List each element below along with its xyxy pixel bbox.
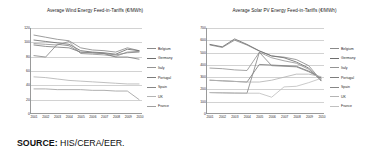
x-axis-tick-label: 2007	[281, 115, 288, 119]
legend-item-france: France	[330, 102, 378, 112]
legend-swatch-icon	[330, 87, 339, 88]
x-axis-tick-label: 2001	[206, 115, 213, 119]
legend-swatch-icon	[330, 48, 339, 49]
legend-label: Germany	[158, 56, 172, 60]
y-axis-tick-label: 100	[200, 100, 206, 104]
y-axis-tick-label: 500	[200, 51, 206, 55]
plot-area-solar: 0100200300400500600700200120022003200420…	[206, 28, 324, 114]
legend-label: Portugal	[341, 76, 354, 80]
legend-item-uk: UK	[330, 92, 378, 102]
x-axis-tick-label: 2005	[78, 115, 85, 119]
legend-swatch-icon	[147, 106, 156, 107]
legend-solar: BelgiumGermanyItalyPortugalSpainUKFrance	[330, 44, 378, 111]
y-axis-tick-label: 120	[24, 26, 30, 30]
y-axis-tick-label: 600	[200, 38, 206, 42]
legend-item-germany: Germany	[147, 54, 189, 64]
y-axis-tick-label: 400	[200, 63, 206, 67]
legend-item-france: France	[147, 102, 189, 112]
legend-item-germany: Germany	[330, 54, 378, 64]
figure-root: Average Wind Energy Feed-in-Tariffs (€/M…	[0, 0, 379, 155]
legend-swatch-icon	[330, 67, 339, 68]
legend-label: Spain	[341, 85, 350, 89]
source-value: HIS/CERA/EER.	[60, 138, 125, 148]
y-axis-tick-label: 80	[26, 55, 30, 59]
plot-frame-solar: 0100200300400500600700200120022003200420…	[206, 28, 324, 114]
legend-item-italy: Italy	[330, 63, 378, 73]
x-axis-tick-label: 2010	[318, 115, 325, 119]
legend-label: France	[158, 104, 169, 108]
legend-label: France	[341, 104, 352, 108]
legend-swatch-icon	[147, 77, 156, 78]
legend-wind: BelgiumGermanyItalyPortugalSpainUKFrance	[147, 44, 189, 111]
x-axis-tick-label: 2006	[89, 115, 96, 119]
x-axis-tick-label: 2004	[66, 115, 73, 119]
legend-label: UK	[158, 95, 163, 99]
x-axis-tick-label: 2006	[269, 115, 276, 119]
x-axis-tick-label: 2002	[42, 115, 49, 119]
source-label: SOURCE:	[17, 138, 58, 148]
legend-swatch-icon	[147, 67, 156, 68]
legend-swatch-icon	[330, 106, 339, 107]
series-line-spain	[210, 52, 321, 93]
legend-swatch-icon	[147, 96, 156, 97]
legend-swatch-icon	[330, 77, 339, 78]
chart-solar: Average Solar PV Energy Feed-in-Tariffs …	[190, 0, 379, 128]
plot-frame-wind: 0204060801001202001200220032004200520062…	[30, 28, 142, 114]
series-line-belgium	[34, 35, 139, 52]
legend-swatch-icon	[330, 58, 339, 59]
x-axis-tick-label: 2008	[294, 115, 301, 119]
y-axis-tick-label: 700	[200, 26, 206, 30]
legend-swatch-icon	[147, 87, 156, 88]
series-line-uk	[34, 77, 139, 84]
x-axis-tick-label: 2009	[125, 115, 132, 119]
x-axis-tick-label: 2002	[219, 115, 226, 119]
series-lines-wind	[31, 28, 142, 113]
chart-title-wind: Average Wind Energy Feed-in-Tariffs (€/M…	[0, 8, 190, 13]
legend-item-portugal: Portugal	[147, 73, 189, 83]
legend-label: Spain	[158, 85, 167, 89]
legend-item-uk: UK	[147, 92, 189, 102]
x-axis-tick-label: 2008	[113, 115, 120, 119]
legend-label: Italy	[158, 66, 164, 70]
legend-swatch-icon	[147, 58, 156, 59]
y-axis-tick-label: 200	[200, 87, 206, 91]
legend-item-belgium: Belgium	[330, 44, 378, 54]
series-line-uk	[210, 74, 321, 82]
x-axis-tick-label: 2003	[54, 115, 61, 119]
legend-item-spain: Spain	[147, 82, 189, 92]
source-line: SOURCE: HIS/CERA/EER.	[17, 138, 125, 148]
x-axis-tick-label: 2007	[101, 115, 108, 119]
y-axis-tick-label: 60	[26, 69, 30, 73]
legend-swatch-icon	[330, 96, 339, 97]
plot-area-wind: 0204060801001202001200220032004200520062…	[30, 28, 142, 114]
y-axis-tick-label: 300	[200, 75, 206, 79]
x-axis-tick-label: 2004	[244, 115, 251, 119]
legend-label: Belgium	[341, 47, 354, 51]
legend-label: UK	[341, 95, 346, 99]
legend-label: Italy	[341, 66, 347, 70]
legend-item-spain: Spain	[330, 82, 378, 92]
x-axis-tick-label: 2001	[30, 115, 37, 119]
legend-label: Germany	[341, 56, 355, 60]
y-axis-tick-label: 100	[24, 40, 30, 44]
chart-wind: Average Wind Energy Feed-in-Tariffs (€/M…	[0, 0, 190, 128]
x-axis-tick-label: 2009	[306, 115, 313, 119]
legend-label: Belgium	[158, 47, 171, 51]
legend-swatch-icon	[147, 48, 156, 49]
y-axis-tick-label: 40	[26, 83, 30, 87]
x-axis-tick-label: 2005	[256, 115, 263, 119]
legend-item-portugal: Portugal	[330, 73, 378, 83]
series-lines-solar	[207, 28, 324, 113]
legend-item-belgium: Belgium	[147, 44, 189, 54]
chart-title-solar: Average Solar PV Energy Feed-in-Tariffs …	[190, 8, 379, 13]
x-axis-tick-label: 2003	[231, 115, 238, 119]
series-line-france	[34, 89, 139, 100]
legend-label: Portugal	[158, 76, 171, 80]
y-axis-tick-label: 20	[26, 98, 30, 102]
legend-item-italy: Italy	[147, 63, 189, 73]
x-axis-tick-label: 2010	[136, 115, 143, 119]
